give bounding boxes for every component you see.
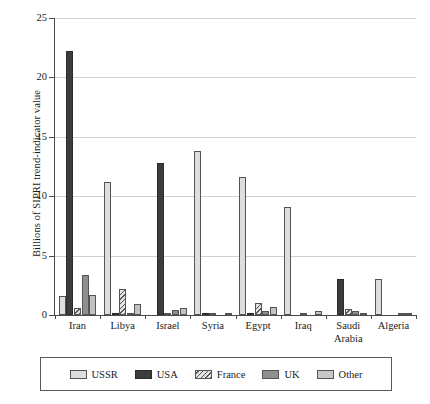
bar <box>262 311 269 315</box>
bar <box>225 313 232 315</box>
legend-item[interactable]: USA <box>135 369 178 380</box>
y-axis-title: Billions of SIPRI trend-indicator value <box>31 54 42 294</box>
legend-item[interactable]: France <box>195 369 246 380</box>
bar <box>66 51 73 315</box>
bar-group <box>330 18 367 315</box>
legend-item[interactable]: Other <box>317 369 363 380</box>
legend-label: France <box>217 369 246 380</box>
x-axis-label-line: Syria <box>202 320 224 331</box>
x-tick-mark <box>281 315 282 319</box>
legend-label: USSR <box>92 369 118 380</box>
bar <box>82 275 89 315</box>
bar <box>284 207 291 315</box>
x-tick-mark <box>326 315 327 319</box>
bar <box>337 279 344 315</box>
x-axis-label: SaudiArabia <box>334 320 363 345</box>
bars-layer <box>55 18 416 315</box>
bar <box>112 313 119 315</box>
x-axis-label-line: Arabia <box>334 333 363 346</box>
bar <box>209 313 216 315</box>
x-axis-label: Algeria <box>378 320 410 333</box>
x-axis-label: Syria <box>202 320 224 333</box>
bar-group <box>104 18 141 315</box>
legend-swatch-uk <box>262 370 279 379</box>
bar <box>104 182 111 315</box>
bar <box>194 151 201 315</box>
bar <box>119 289 126 315</box>
x-tick-mark <box>100 315 101 319</box>
x-axis-label-line: Iran <box>69 320 86 331</box>
bar <box>89 295 96 315</box>
x-axis-label: Iran <box>69 320 86 333</box>
y-tick-label: 15 <box>37 132 48 143</box>
y-tick-label: 25 <box>37 13 48 24</box>
bar <box>164 313 171 315</box>
bar <box>134 304 141 315</box>
legend-items: USSRUSAFranceUKOther <box>41 358 391 390</box>
x-axis-label-line: Libya <box>110 320 135 331</box>
x-axis-label: Libya <box>110 320 135 333</box>
legend-swatch-ussr <box>70 370 87 379</box>
x-tick-mark <box>236 315 237 319</box>
x-axis-label: Israel <box>156 320 179 333</box>
x-axis-label-line: Saudi <box>336 320 360 331</box>
bar <box>352 311 359 315</box>
bar <box>59 296 66 315</box>
bar <box>172 310 179 315</box>
bar <box>247 313 254 315</box>
bar-group <box>194 18 231 315</box>
legend-swatch-other <box>317 370 334 379</box>
x-tick-mark <box>416 315 417 319</box>
bar-group <box>239 18 276 315</box>
bar <box>270 307 277 315</box>
x-axis-label-line: Israel <box>156 320 179 331</box>
x-axis-label-line: Egypt <box>246 320 271 331</box>
legend-swatch-usa <box>135 370 152 379</box>
x-tick-mark <box>145 315 146 319</box>
y-tick-label: 5 <box>42 250 47 261</box>
x-tick-mark <box>371 315 372 319</box>
bar-group <box>375 18 412 315</box>
bar-chart-figure: Billions of SIPRI trend-indicator value … <box>0 0 430 404</box>
bar <box>239 177 246 315</box>
bar <box>405 313 412 315</box>
legend-label: UK <box>284 369 299 380</box>
x-axis-label: Iraq <box>295 320 312 333</box>
bar-group <box>284 18 321 315</box>
bar <box>398 313 405 315</box>
plot-area: 0510152025 <box>54 18 416 316</box>
bar <box>300 313 307 315</box>
bar <box>74 308 81 315</box>
legend-swatch-france <box>195 370 212 379</box>
bar <box>127 313 134 315</box>
x-tick-mark <box>190 315 191 319</box>
bar <box>315 311 322 315</box>
x-axis-label: Egypt <box>246 320 271 333</box>
bar <box>180 308 187 315</box>
y-tick-label: 10 <box>37 191 48 202</box>
x-axis-labels: IranLibyaIsraelSyriaEgyptIraqSaudiArabia… <box>54 320 416 356</box>
bar-group <box>149 18 186 315</box>
legend-label: Other <box>339 369 363 380</box>
x-axis-label-line: Iraq <box>295 320 312 331</box>
bar <box>255 303 262 315</box>
legend-label: USA <box>157 369 178 380</box>
bar <box>345 309 352 315</box>
x-tick-mark <box>55 315 56 319</box>
bar <box>202 313 209 315</box>
x-axis-label-line: Algeria <box>378 320 410 331</box>
bar <box>157 163 164 315</box>
bar <box>360 313 367 315</box>
legend-item[interactable]: UK <box>262 369 299 380</box>
y-tick-label: 20 <box>37 72 48 83</box>
legend: USSRUSAFranceUKOther <box>40 357 392 391</box>
y-tick-label: 0 <box>42 310 47 321</box>
bar <box>375 279 382 315</box>
bar-group <box>59 18 96 315</box>
legend-item[interactable]: USSR <box>70 369 118 380</box>
